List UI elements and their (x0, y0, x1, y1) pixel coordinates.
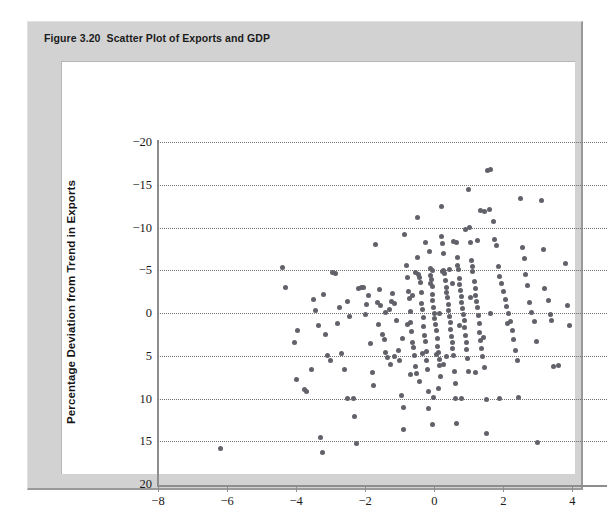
scatter-point (504, 304, 509, 309)
scatter-point (371, 383, 376, 388)
scatter-point (434, 328, 439, 333)
y-tick-label: −15 (116, 177, 152, 192)
y-tick-label: 10 (116, 391, 152, 406)
scatter-point (460, 306, 465, 311)
scatter-point (529, 310, 534, 315)
scatter-point (425, 367, 430, 372)
scatter-point (565, 303, 570, 308)
scatter-point (463, 227, 468, 232)
scatter-point (473, 293, 478, 298)
scatter-point (304, 389, 309, 394)
scatter-point (335, 321, 340, 326)
scatter-point (472, 279, 477, 284)
scatter-point (388, 362, 393, 367)
scatter-point (428, 281, 433, 286)
scatter-point (434, 352, 439, 357)
y-tick-label: −10 (116, 220, 152, 235)
scatter-point (466, 369, 471, 374)
x-axis-line (157, 485, 607, 487)
scatter-point (432, 316, 437, 321)
scatter-point (431, 395, 436, 400)
scatter-point (457, 282, 462, 287)
scatter-point (382, 337, 387, 342)
scatter-point (399, 393, 404, 398)
scatter-point (448, 327, 453, 332)
scatter-point (320, 450, 325, 455)
y-tick-label: −20 (116, 135, 152, 150)
scatter-point (518, 196, 523, 201)
chart-panel: Percentage Deviation from Trend in Expor… (61, 61, 575, 474)
y-tick-label: −5 (116, 263, 152, 278)
scatter-point (412, 353, 417, 358)
scatter-point (294, 377, 299, 382)
scatter-point (563, 261, 568, 266)
scatter-point (463, 333, 468, 338)
x-tick-label: −6 (207, 494, 247, 509)
scatter-point (437, 357, 442, 362)
scatter-point (394, 318, 399, 323)
scatter-point (546, 298, 551, 303)
scatter-point (491, 219, 496, 224)
scatter-point (405, 322, 410, 327)
scatter-point (441, 251, 446, 256)
scatter-point (457, 323, 462, 328)
scatter-point (440, 241, 445, 246)
scatter-point (549, 318, 554, 323)
scatter-point (430, 292, 435, 297)
scatter-point (488, 311, 493, 316)
scatter-point (499, 281, 504, 286)
scatter-point (497, 396, 502, 401)
scatter-point (458, 288, 463, 293)
scatter-point (455, 255, 460, 260)
scatter-point (452, 369, 457, 374)
scatter-point (444, 354, 449, 359)
scatter-point (450, 281, 455, 286)
scatter-point (426, 389, 431, 394)
scatter-point (542, 286, 547, 291)
scatter-point (417, 379, 422, 384)
scatter-point (484, 431, 489, 436)
scatter-point (447, 267, 452, 272)
scatter-point (470, 269, 475, 274)
scatter-point (484, 397, 489, 402)
scatter-point (510, 328, 515, 333)
scatter-point (476, 313, 481, 318)
scatter-point (385, 355, 390, 360)
scatter-point (464, 340, 469, 345)
scatter-point (454, 421, 459, 426)
scatter-point (475, 238, 480, 243)
scatter-point (480, 354, 485, 359)
scatter-point (283, 285, 288, 290)
scatter-point (295, 328, 300, 333)
scatter-point (473, 286, 478, 291)
scatter-point (520, 245, 525, 250)
scatter-point (413, 270, 418, 275)
scatter-point (318, 435, 323, 440)
scatter-point (453, 396, 458, 401)
scatter-point (400, 336, 405, 341)
y-axis-label: Percentage Deviation from Trend in Expor… (61, 132, 81, 472)
scatter-point (426, 406, 431, 411)
x-tick-mark (503, 486, 504, 492)
scatter-point (410, 293, 415, 298)
scatter-point (313, 308, 318, 313)
scatter-point (397, 358, 402, 363)
x-tick-mark (572, 486, 573, 492)
scatter-point (515, 358, 520, 363)
scatter-point (368, 341, 373, 346)
scatter-point (280, 265, 285, 270)
scatter-point (337, 305, 342, 310)
figure-caption-text: Scatter Plot of Exports and GDP (107, 32, 271, 44)
scatter-point (321, 292, 326, 297)
scatter-point (333, 271, 338, 276)
scatter-point (404, 263, 409, 268)
x-tick-mark (434, 486, 435, 492)
scatter-point (352, 414, 357, 419)
scatter-point (414, 371, 419, 376)
scatter-point (339, 351, 344, 356)
x-tick-label: −4 (276, 494, 316, 509)
scatter-point (523, 272, 528, 277)
scatter-point (433, 322, 438, 327)
scatter-point (516, 395, 521, 400)
figure-number: Figure 3.20 (44, 32, 101, 44)
